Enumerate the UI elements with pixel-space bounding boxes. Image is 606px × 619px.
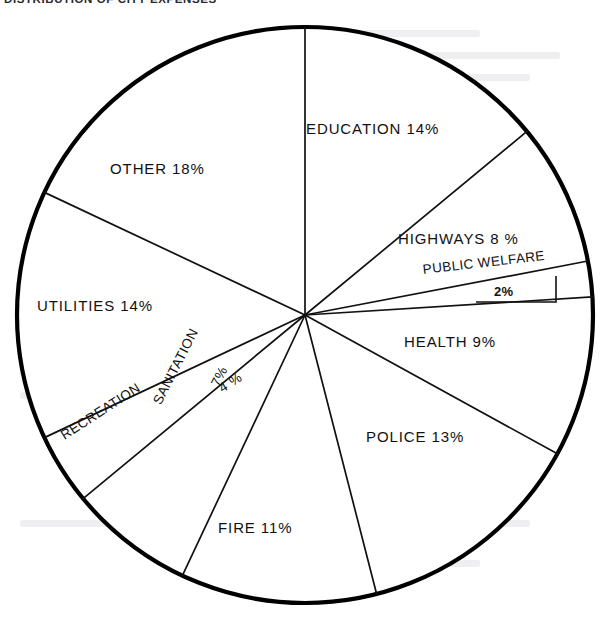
- slice-label-education: EDUCATION 14%: [306, 120, 439, 137]
- page-title: DISTRIBUTION OF CITY EXPENSES: [4, 0, 217, 5]
- slice-label-fire: FIRE 11%: [218, 519, 292, 536]
- slice-label-police: POLICE 13%: [366, 428, 464, 445]
- slice-label-highways: HIGHWAYS 8 %: [398, 230, 519, 247]
- slice-label-health: HEALTH 9%: [404, 333, 496, 350]
- slice-label-other: OTHER 18%: [110, 160, 205, 177]
- slice-label-public-welfare-percent: 2%: [494, 284, 513, 299]
- slice-label-utilities: UTILITIES 14%: [37, 297, 153, 314]
